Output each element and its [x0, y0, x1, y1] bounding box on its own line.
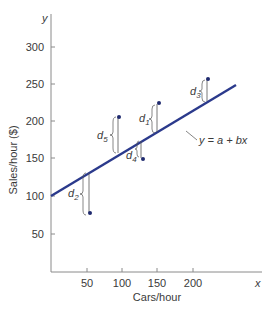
- equation-label: y = a + bx: [198, 134, 248, 146]
- y-tick-labels: 300 250 200 150 100 50: [26, 41, 44, 240]
- data-point: [141, 157, 145, 161]
- y-ticks: [51, 47, 55, 234]
- x-tick-labels: 50 100 150 200: [81, 277, 202, 289]
- svg-text:200: 200: [26, 115, 44, 127]
- svg-text:50: 50: [81, 277, 93, 289]
- residual-d5: d5: [97, 115, 121, 153]
- x-axis-title: Cars/hour: [133, 291, 182, 303]
- svg-text:d4: d4: [126, 149, 137, 164]
- y-axis-title: Sales/hour ($): [7, 125, 19, 194]
- svg-text:200: 200: [184, 277, 202, 289]
- svg-text:100: 100: [26, 190, 44, 202]
- x-axis-symbol: x: [254, 277, 261, 289]
- y-axis-symbol: y: [41, 12, 49, 24]
- svg-text:d3: d3: [190, 85, 201, 100]
- svg-text:150: 150: [148, 277, 166, 289]
- residual-d1: d1: [139, 101, 161, 133]
- regression-diagram: 300 250 200 150 100 50 50 100 150 200 y …: [0, 0, 269, 309]
- svg-text:250: 250: [26, 78, 44, 90]
- svg-text:100: 100: [113, 277, 131, 289]
- x-ticks: [87, 268, 193, 272]
- data-point: [157, 101, 161, 105]
- svg-text:150: 150: [26, 152, 44, 164]
- data-point: [206, 77, 210, 81]
- svg-text:50: 50: [32, 228, 44, 240]
- svg-text:d1: d1: [139, 112, 150, 127]
- data-point: [88, 211, 92, 215]
- data-point: [117, 115, 121, 119]
- svg-text:300: 300: [26, 41, 44, 53]
- residual-d3: d3: [190, 77, 210, 102]
- equation-leader: [186, 131, 197, 140]
- svg-text:d2: d2: [68, 187, 79, 202]
- svg-text:d5: d5: [97, 129, 108, 144]
